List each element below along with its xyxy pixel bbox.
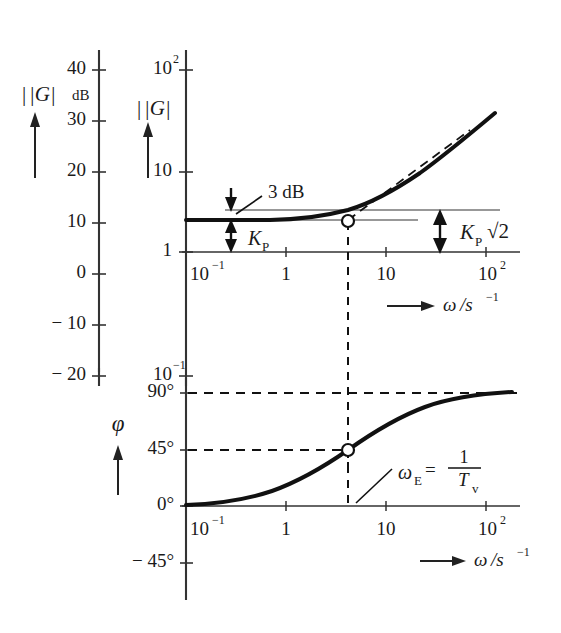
phase-tick-label-0: 0°	[157, 493, 174, 514]
x-tick-label-100-top-exponent: 2	[500, 258, 506, 272]
magnitude-x-axis-unit-exponent: −1	[486, 290, 499, 304]
phase-corner-point-marker	[342, 444, 354, 456]
omega-e-fraction-denominator-subscript: v	[472, 481, 479, 496]
corner-frequency-annotation: ω E = 1 T v	[356, 447, 481, 503]
omega-e-fraction-denominator-base: T	[458, 469, 470, 490]
phase-tick-label-m45: − 45°	[132, 550, 174, 571]
x-tick-label-100-bottom-exponent: 2	[500, 513, 506, 527]
gain-axis-up-arrow	[143, 122, 153, 178]
x-tick-label-10-top: 10	[377, 263, 396, 284]
db-tick-label-30: 30	[67, 108, 86, 129]
db-tick-label-minus10: − 10	[52, 312, 86, 333]
db-axis-up-arrow	[30, 112, 40, 178]
x-tick-label-1-top: 1	[281, 263, 291, 284]
gain-axis-title-bar-left: |	[137, 96, 141, 120]
x-tick-label-0p1-top: 10 −1	[190, 258, 225, 285]
bode-diagram-figure: 40 30 20 10 0 − 10 − 20 | |G| dB	[0, 0, 561, 633]
x-tick-label-100-top: 10 2	[478, 258, 506, 285]
phase-x-axis-unit-exponent: −1	[517, 545, 530, 559]
kp-label-subscript: P	[262, 239, 269, 254]
db-axis-title-bar-left: |	[22, 82, 26, 106]
gain-axis: 10 2 10 1 10 −1 | |G|	[137, 50, 193, 386]
phase-y-axis: 90° 45° 0° − 45° φ	[112, 378, 193, 600]
three-db-label: 3 dB	[268, 181, 304, 202]
gain-axis-title-G: |G|	[144, 96, 171, 120]
asymptote-dashed-line	[348, 130, 470, 220]
magnitude-x-axis: 10 −1 1 10 10 2 ω /s −1	[182, 247, 520, 315]
x-tick-label-100-top-mantissa: 10	[478, 263, 497, 284]
phase-x-axis-label: ω /s −1	[420, 545, 530, 571]
bode-diagram-svg: 40 30 20 10 0 − 10 − 20 | |G| dB	[0, 0, 561, 633]
omega-e-symbol: ω	[398, 461, 412, 483]
kp-annotation: K P	[225, 219, 269, 254]
phase-tick-label-45: 45°	[147, 437, 174, 458]
omega-e-subscript: E	[414, 473, 422, 488]
corner-frequency-leader-line	[356, 469, 392, 503]
x-tick-label-0p1-top-mantissa: 10	[190, 263, 209, 284]
three-db-annotation: 3 dB	[225, 181, 304, 214]
kp-sqrt2-label-subscript: P	[475, 234, 482, 249]
gain-tick-label-0p1-exponent: −1	[173, 358, 186, 372]
db-tick-label-20: 20	[67, 159, 86, 180]
x-tick-label-100-bottom: 10 2	[478, 513, 506, 540]
gain-tick-label-100: 10 2	[153, 52, 179, 79]
x-tick-label-0p1-top-exponent: −1	[212, 258, 225, 272]
magnitude-corner-point-marker	[342, 215, 354, 227]
magnitude-x-axis-unit: /s	[459, 294, 473, 315]
phase-x-axis: 10 −1 1 10 10 2 ω /s −1	[182, 501, 530, 570]
kp-label-base: K	[247, 227, 263, 249]
db-axis-title-unit: dB	[72, 87, 90, 103]
phase-y-axis-title: φ	[112, 411, 125, 436]
magnitude-x-axis-label: ω /s −1	[387, 290, 499, 316]
x-tick-label-0p1-bottom-mantissa: 10	[190, 518, 209, 539]
phase-panel: 90° 45° 0° − 45° φ 10 −1 1 10 10	[112, 378, 530, 600]
db-tick-label-minus20: − 20	[52, 363, 86, 384]
db-tick-label-0: 0	[77, 261, 87, 282]
phase-y-axis-up-arrow	[113, 445, 123, 495]
x-tick-label-100-bottom-mantissa: 10	[478, 518, 497, 539]
x-tick-label-0p1-bottom-exponent: −1	[212, 513, 225, 527]
x-tick-label-10-bottom: 10	[377, 518, 396, 539]
omega-e-equals: =	[425, 459, 436, 480]
phase-x-axis-symbol: ω	[474, 549, 487, 570]
db-tick-label-10: 10	[67, 210, 86, 231]
x-tick-label-0p1-bottom: 10 −1	[190, 513, 225, 540]
kp-sqrt2-annotation: K P √2	[433, 209, 509, 254]
gain-tick-label-100-mantissa: 10	[153, 57, 172, 78]
db-axis: 40 30 20 10 0 − 10 − 20 | |G| dB	[22, 50, 106, 386]
magnitude-panel: 40 30 20 10 0 − 10 − 20 | |G| dB	[22, 50, 520, 470]
kp-sqrt2-label-radical: √2	[487, 219, 509, 243]
kp-sqrt2-label-base: K	[459, 220, 475, 244]
gain-tick-label-1: 1	[163, 239, 173, 260]
omega-e-fraction-numerator: 1	[460, 447, 469, 467]
db-axis-title-G: |G|	[29, 82, 56, 106]
gain-tick-label-10: 10	[153, 159, 172, 180]
gain-tick-label-100-exponent: 2	[173, 52, 179, 66]
phase-x-axis-unit: /s	[490, 549, 504, 570]
phase-tick-label-90: 90°	[147, 380, 174, 401]
x-tick-label-1-bottom: 1	[281, 518, 291, 539]
db-tick-label-40: 40	[67, 57, 86, 78]
magnitude-x-axis-symbol: ω	[443, 294, 456, 315]
